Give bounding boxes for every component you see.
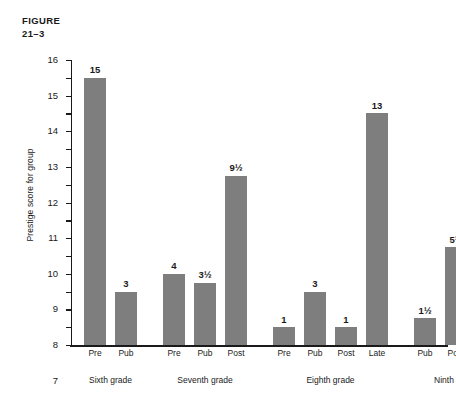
x-axis-tick-label: Pub <box>417 349 432 358</box>
bar: 3 <box>115 292 137 345</box>
bar: 1 <box>335 327 357 345</box>
x-axis-tick-label: Pre <box>88 349 101 358</box>
bar: 5½ <box>445 247 456 345</box>
x-axis-tick-label: Pub <box>197 349 212 358</box>
y-axis-title: Prestige score for group <box>25 110 35 280</box>
bar-value-label: 3½ <box>198 270 211 280</box>
bar: 15 <box>84 78 106 345</box>
y-axis-tick-label: 13 <box>47 162 58 172</box>
bar-value-label: 9½ <box>229 163 242 173</box>
group-label: Sixth grade <box>89 376 132 385</box>
bar: 9½ <box>225 176 247 345</box>
y-axis-tick: 16 <box>66 60 71 61</box>
bar-value-label: 4 <box>171 261 176 271</box>
bar-value-label: 5½ <box>449 235 456 245</box>
bar: 3½ <box>194 283 216 345</box>
y-axis-tick-label: 11 <box>48 233 58 243</box>
x-axis-tick-label: Pub <box>118 349 133 358</box>
figure-caption: FIGURE 21–3 <box>22 14 60 40</box>
y-axis-tick-label: 10 <box>47 269 58 279</box>
bar-value-label: 13 <box>372 101 383 111</box>
bar: 4 <box>163 274 185 345</box>
bar: 13 <box>366 113 388 345</box>
y-axis-tick: 7 <box>66 220 71 221</box>
y-axis-line <box>71 60 72 345</box>
bar-value-label: 3 <box>123 279 128 289</box>
y-axis-tick-label: 15 <box>47 91 58 101</box>
x-axis-tick-label: Pre <box>277 349 290 358</box>
y-axis-tick: 5 <box>66 256 71 257</box>
y-axis-tick: 8 <box>66 203 71 204</box>
bar-value-label: 3 <box>312 279 317 289</box>
group-label: Ninth grade <box>434 376 456 385</box>
bar-value-label: 1 <box>281 315 286 325</box>
group-label: Eighth grade <box>306 376 354 385</box>
figure-caption-line2: 21–3 <box>22 27 60 40</box>
group-label: Seventh grade <box>177 376 232 385</box>
x-axis-tick-label: Post <box>227 349 244 358</box>
y-axis-tick: 15 <box>66 78 71 79</box>
bar-value-label: 1½ <box>418 306 431 316</box>
y-axis-tick: 10 <box>66 167 71 168</box>
x-axis-line <box>70 345 448 347</box>
x-axis-tick-label: Pre <box>167 349 180 358</box>
y-axis-tick-label: 12 <box>47 198 58 208</box>
y-axis-tick-label: 9 <box>53 305 58 315</box>
bar: 1½ <box>414 318 436 345</box>
x-axis-tick-label: Pub <box>307 349 322 358</box>
figure-caption-line1: FIGURE <box>22 14 60 27</box>
y-axis-tick: 13 <box>66 113 71 114</box>
bar: 3 <box>304 292 326 345</box>
y-axis-tick: 0 <box>66 345 71 346</box>
y-axis-tick: 4 <box>66 274 71 275</box>
bar-value-label: 1 <box>343 315 348 325</box>
y-axis-tick: 1 <box>66 327 71 328</box>
y-axis-tick: 9 <box>66 185 71 186</box>
x-axis-tick-label: Post <box>447 349 456 358</box>
y-axis-tick: 12 <box>66 131 71 132</box>
y-axis-tick-label: 7 <box>53 376 58 386</box>
y-axis-tick: 14 <box>66 96 71 97</box>
x-axis-tick-label: Late <box>369 349 386 358</box>
y-axis-tick: 3 <box>66 292 71 293</box>
y-axis-tick: 2 <box>66 309 71 310</box>
y-axis-tick-label: 16 <box>47 55 58 65</box>
y-axis-tick: 11 <box>66 149 71 150</box>
bar-value-label: 15 <box>90 65 101 75</box>
x-axis-tick-label: Post <box>337 349 354 358</box>
bar: 1 <box>273 327 295 345</box>
y-axis-tick-label: 8 <box>53 340 58 350</box>
y-axis-tick: 6 <box>66 238 71 239</box>
y-axis-tick-label: 14 <box>47 127 58 137</box>
chart-plot-area: 012345678910111213141516 15Pre3Pub4Pre3½… <box>71 60 447 345</box>
